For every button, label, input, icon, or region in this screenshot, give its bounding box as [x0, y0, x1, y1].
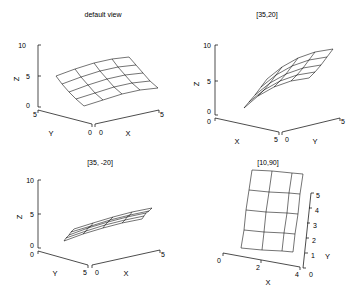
x-tick-4: 4 — [295, 271, 299, 278]
surface-mesh — [64, 208, 152, 241]
z-axis-label: Z — [12, 76, 21, 81]
y-tick-0: 0 — [30, 251, 34, 258]
subplot-title: [35, -20] — [87, 159, 113, 167]
y-tick-3: 3 — [313, 222, 317, 229]
z-tick-0: 0 — [207, 108, 211, 115]
y-tick-5: 5 — [33, 111, 37, 118]
z-tick-10: 10 — [203, 42, 211, 49]
z-tick-10: 10 — [18, 42, 26, 49]
z-axis-label: Z — [15, 214, 24, 219]
y-axis-label: Y — [325, 252, 330, 261]
y-tick-4: 4 — [315, 207, 319, 214]
figure-canvas: default view 10 5 0 Z 5 0 Y 0 5 X — [0, 0, 350, 296]
subplot-title: default view — [85, 11, 123, 18]
x-tick-0: 0 — [95, 269, 99, 276]
surface-mesh — [241, 170, 303, 252]
x-tick-2: 2 — [256, 264, 260, 271]
y-axis-label: Y — [48, 129, 53, 138]
subplot-title: [35,20] — [256, 11, 277, 19]
x-tick-0: 0 — [207, 118, 211, 125]
x-axis-label: X — [123, 269, 128, 278]
x-axis-label: X — [125, 129, 130, 138]
y-tick-5: 5 — [341, 118, 345, 125]
y-tick-0: 0 — [88, 129, 92, 136]
z-tick-10: 10 — [26, 177, 34, 184]
subplot-view-10-90: [10,90] 0 2 4 X 0 1 2 3 4 5 Y — [175, 148, 350, 296]
z-tick-0: 0 — [30, 242, 34, 249]
x-tick-5: 5 — [274, 136, 278, 143]
subplot-title: [10,90] — [257, 159, 278, 167]
x-tick-5: 5 — [161, 251, 165, 258]
y-tick-1: 1 — [311, 252, 315, 259]
subplot-default-view: default view 10 5 0 Z 5 0 Y 0 5 X — [0, 0, 175, 148]
y-axis-label: Y — [52, 269, 57, 278]
y-tick-5: 5 — [83, 269, 87, 276]
x-tick-0: 0 — [99, 129, 103, 136]
y-axis-label: Y — [312, 137, 317, 146]
surface-mesh — [56, 57, 158, 106]
subplot-view-35-neg20: [35, -20] 10 5 0 Z 0 5 Y 0 5 X — [0, 148, 175, 296]
z-axis-label: Z — [192, 81, 201, 86]
y-tick-0: 0 — [309, 271, 313, 278]
y-tick-2: 2 — [312, 237, 316, 244]
z-tick-5: 5 — [207, 78, 211, 85]
surface-mesh — [244, 49, 333, 108]
y-tick-0: 0 — [285, 136, 289, 143]
x-tick-5: 5 — [160, 111, 164, 118]
x-axis-label: X — [265, 278, 270, 287]
x-tick-0: 0 — [217, 257, 221, 264]
x-axis-label: X — [234, 137, 239, 146]
z-tick-5: 5 — [26, 73, 30, 80]
subplot-view-35-20: [35,20] 10 5 0 Z 0 5 X 0 5 Y — [175, 0, 350, 148]
y-tick-5: 5 — [316, 192, 320, 199]
z-tick-5: 5 — [30, 211, 34, 218]
z-tick-0: 0 — [26, 102, 30, 109]
